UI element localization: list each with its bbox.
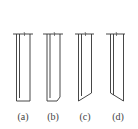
diagram-canvas (0, 0, 138, 129)
panel-a-shape (13, 32, 33, 101)
panel-b-label: (b) (47, 111, 59, 122)
panel-c-shape (75, 32, 94, 101)
panel-b-shape (43, 32, 63, 101)
panel-d-label: (d) (112, 111, 124, 122)
panel-c-label: (c) (79, 111, 90, 122)
panel-d-shape (106, 32, 125, 101)
panel-a-label: (a) (17, 111, 28, 122)
